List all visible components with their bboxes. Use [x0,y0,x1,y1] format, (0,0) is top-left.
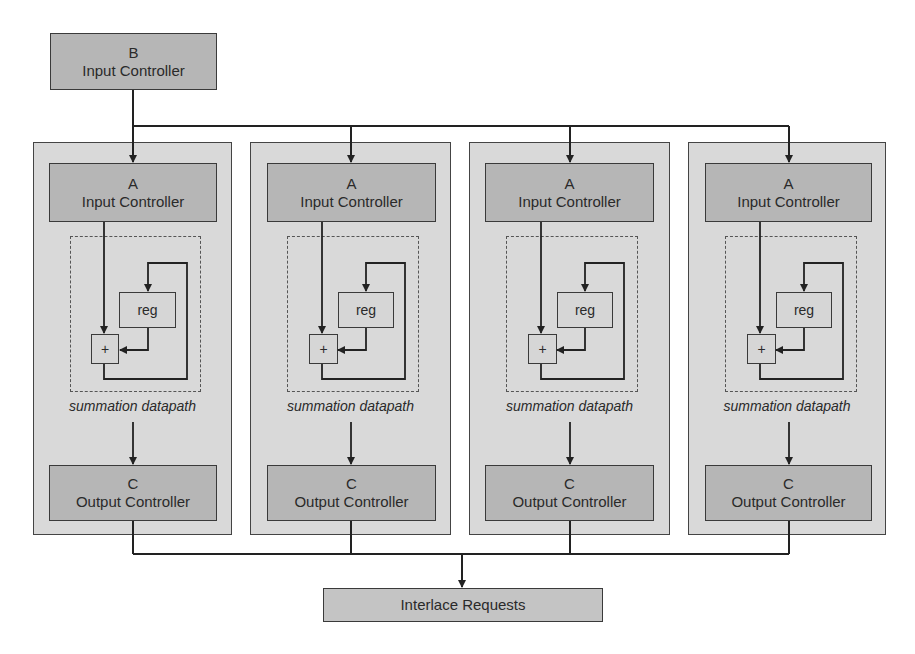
register-label: reg [794,301,814,319]
a-letter: A [564,175,574,193]
c-label: Output Controller [76,493,190,511]
a-label: Input Controller [518,193,621,211]
adder-label: + [757,340,765,358]
adder-1: + [91,334,119,364]
a-letter: A [346,175,356,193]
a-letter: A [128,175,138,193]
a-input-controller-2: A Input Controller [267,163,436,222]
adder-label: + [319,340,327,358]
register-4: reg [776,292,832,328]
c-output-controller-2: C Output Controller [267,465,436,521]
c-letter: C [564,475,575,493]
c-output-controller-3: C Output Controller [485,465,654,521]
a-label: Input Controller [300,193,403,211]
c-letter: C [128,475,139,493]
a-letter: A [783,175,793,193]
register-label: reg [137,301,157,319]
c-label: Output Controller [512,493,626,511]
c-letter: C [783,475,794,493]
a-label: Input Controller [737,193,840,211]
adder-4: + [747,334,776,364]
interlace-requests: Interlace Requests [323,588,603,622]
b-label: Input Controller [82,62,185,80]
datapath-caption-3: summation datapath [469,398,670,414]
register-label: reg [356,301,376,319]
b-input-controller: B Input Controller [50,33,217,90]
a-input-controller-4: A Input Controller [705,163,872,222]
datapath-caption-1: summation datapath [33,398,232,414]
a-label: Input Controller [82,193,185,211]
adder-2: + [309,334,338,364]
datapath-caption-4: summation datapath [688,398,886,414]
register-2: reg [338,292,394,328]
a-input-controller-1: A Input Controller [49,163,217,222]
a-input-controller-3: A Input Controller [485,163,654,222]
b-letter: B [128,44,138,62]
register-label: reg [575,301,595,319]
c-label: Output Controller [294,493,408,511]
interlace-label: Interlace Requests [400,596,525,614]
register-1: reg [119,292,176,328]
datapath-caption-2: summation datapath [250,398,451,414]
adder-label: + [101,340,109,358]
c-output-controller-4: C Output Controller [705,465,872,521]
adder-label: + [538,340,546,358]
c-label: Output Controller [731,493,845,511]
c-letter: C [346,475,357,493]
register-3: reg [557,292,613,328]
adder-3: + [528,334,557,364]
c-output-controller-1: C Output Controller [49,465,217,521]
